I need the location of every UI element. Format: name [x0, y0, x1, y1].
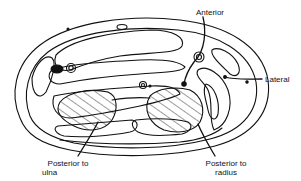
ulnar-muscle — [32, 57, 54, 96]
label-posterior-to-ulna-line1: Posterior to — [38, 159, 98, 168]
nerve-dot-top — [67, 28, 69, 30]
label-posterior-to-radius-line2: radius — [196, 168, 256, 177]
label-lateral: Lateral — [265, 75, 289, 84]
vein-black — [51, 65, 63, 73]
nerve-dot-lateral — [246, 81, 248, 83]
label-posterior-to-radius: Posterior to radius — [196, 159, 256, 177]
interosseous-vessel-inner — [142, 84, 145, 87]
interosseous-vessel — [140, 82, 147, 89]
interosseous-membrane — [112, 98, 150, 100]
forearm-cross-section-diagram — [0, 0, 301, 181]
radius-bone — [147, 88, 203, 132]
nerve-dot-mid — [149, 85, 151, 87]
label-posterior-to-radius-line1: Posterior to — [196, 159, 256, 168]
ulna-bone — [58, 90, 116, 129]
label-anterior: Anterior — [196, 8, 224, 17]
lateral-muscle-upper — [212, 49, 240, 76]
pointer-anterior — [184, 17, 205, 84]
label-posterior-to-ulna-line2: ulna — [38, 168, 98, 177]
superficial-vein — [117, 25, 127, 30]
pointer-lateral — [225, 77, 262, 79]
pointer-posterior-radius — [198, 124, 215, 156]
label-posterior-to-ulna: Posterior to ulna — [38, 159, 98, 177]
